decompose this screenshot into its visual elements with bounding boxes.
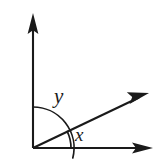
vertical-axis-ray: [28, 13, 39, 148]
horizontal-axis-ray: [33, 143, 153, 154]
angle-x-arc: [67, 131, 71, 148]
angle-label-x: x: [75, 125, 83, 144]
angle-diagram-figure: y x: [0, 0, 157, 166]
diagonal-ray: [33, 92, 149, 148]
angle-label-y: y: [54, 86, 63, 107]
diagonal-ray-line: [33, 98, 139, 149]
